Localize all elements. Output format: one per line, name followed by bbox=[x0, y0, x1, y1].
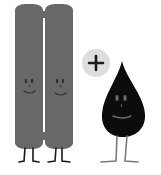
drop-character bbox=[101, 61, 145, 162]
drop-eye-left bbox=[115, 95, 118, 101]
pillar-left-eye-left bbox=[25, 79, 27, 83]
pillar-right-legs bbox=[48, 148, 70, 162]
pillar-right-character bbox=[45, 4, 73, 162]
pillar-right-eye-left bbox=[56, 79, 58, 83]
pillar-left-character bbox=[15, 4, 43, 162]
plus-icon bbox=[82, 49, 110, 77]
pillar-right-eye-right bbox=[62, 79, 64, 83]
pillar-right-body bbox=[45, 4, 73, 149]
drop-eye-right bbox=[123, 95, 126, 101]
pillar-left-legs bbox=[19, 148, 39, 162]
illustration bbox=[0, 0, 161, 175]
drop-legs bbox=[101, 136, 138, 162]
pillar-left-eye-right bbox=[31, 79, 33, 83]
pillar-left-body bbox=[15, 4, 43, 149]
